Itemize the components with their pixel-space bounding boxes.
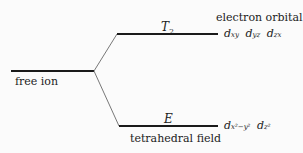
t2-orbitals: dxy dyz dzx	[224, 28, 281, 41]
t2-label: T2	[161, 21, 174, 38]
t2-label-sub: 2	[169, 27, 174, 36]
orbital-dzx: dzx	[267, 27, 282, 40]
orbital-dz2: dz²	[257, 119, 271, 132]
orbital-dyz: dyz	[245, 27, 260, 40]
field-label: tetrahedral field	[130, 133, 221, 145]
column-header: electron orbital	[216, 12, 303, 24]
e-orbitals: dx²−y² dz²	[224, 120, 270, 133]
orbital-dx2y2: dx²−y²	[224, 119, 250, 132]
orbital-dxy: dxy	[224, 27, 239, 40]
t2-label-main: T	[161, 20, 169, 34]
e-label: E	[164, 113, 173, 125]
free-ion-label: free ion	[15, 76, 58, 88]
branch-down	[94, 71, 119, 126]
branch-up	[94, 34, 117, 71]
